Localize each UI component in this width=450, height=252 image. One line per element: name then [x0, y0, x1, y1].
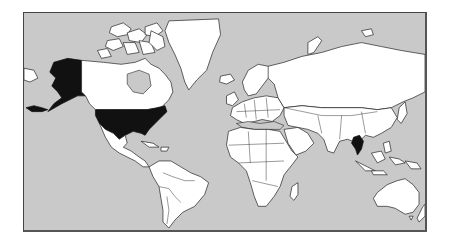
world-map-svg	[24, 13, 425, 230]
world-map	[23, 12, 427, 232]
